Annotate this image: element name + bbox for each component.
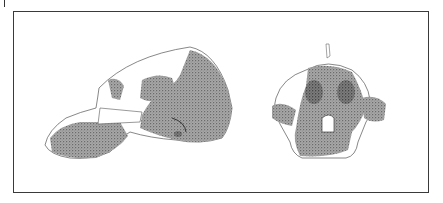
skull-lateral-view bbox=[45, 47, 232, 158]
skull-frontal-view bbox=[272, 44, 386, 158]
figure-illustration bbox=[0, 0, 443, 203]
